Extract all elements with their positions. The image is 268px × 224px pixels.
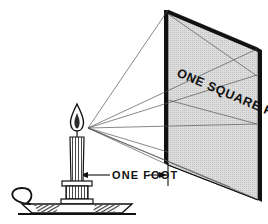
light-panel-left-edge [164, 10, 168, 165]
candle [12, 104, 136, 214]
candle-holder-base [61, 199, 93, 204]
saucer-handle [12, 188, 31, 204]
ray-bottom-left [88, 128, 168, 165]
dimension-arrow: ONE FOOT [79, 163, 178, 186]
candle-illumination-figure: ONE FOOT ONE SQUARE FT. [0, 0, 268, 224]
candle-holder-socket [66, 186, 88, 199]
ray-top-left [88, 10, 168, 128]
candle-body [70, 137, 84, 182]
figure-canvas: ONE FOOT ONE SQUARE FT. [0, 0, 268, 224]
light-panel-right-edge [258, 48, 262, 202]
saucer-shading-left [34, 205, 60, 212]
candle-holder-collar [62, 181, 92, 186]
ray-lower-short [88, 128, 168, 152]
distance-label: ONE FOOT [112, 169, 178, 181]
